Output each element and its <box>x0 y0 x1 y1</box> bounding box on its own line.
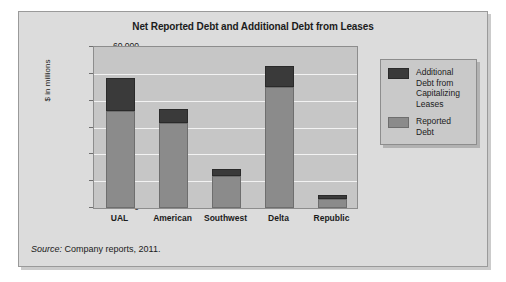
bar-segment-reported-debt[interactable] <box>265 87 294 208</box>
legend-label: Additional Debt from Capitalizing Leases <box>416 67 470 109</box>
plot-area <box>93 46 358 209</box>
gridline <box>94 74 357 75</box>
bar-segment-additional-debt[interactable] <box>318 195 347 199</box>
source-note: Source: Company reports, 2011. <box>31 244 160 254</box>
chart-legend: Additional Debt from Capitalizing Leases… <box>380 59 477 145</box>
bar-group[interactable] <box>106 78 135 208</box>
x-axis-label-southwest: Southwest <box>199 213 252 223</box>
legend-item[interactable]: Additional Debt from Capitalizing Leases <box>388 67 470 109</box>
legend-swatch <box>388 68 409 79</box>
legend-swatch <box>388 117 409 128</box>
x-axis-label-republic: Republic <box>305 213 358 223</box>
bar-segment-reported-debt[interactable] <box>212 176 241 208</box>
legend-item[interactable]: Reported Debt <box>388 116 470 137</box>
x-axis-label-ual: UAL <box>93 213 146 223</box>
legend-label: Reported Debt <box>416 116 470 137</box>
chart-title: Net Reported Debt and Additional Debt fr… <box>19 21 487 32</box>
x-axis-label-american: American <box>146 213 199 223</box>
bar-segment-reported-debt[interactable] <box>106 111 135 208</box>
bar-segment-reported-debt[interactable] <box>159 123 188 208</box>
bar-segment-additional-debt[interactable] <box>106 78 135 112</box>
bar-group[interactable] <box>212 169 241 208</box>
bar-group[interactable] <box>159 109 188 208</box>
bar-segment-additional-debt[interactable] <box>159 109 188 124</box>
bar-segment-additional-debt[interactable] <box>265 66 294 87</box>
bar-group[interactable] <box>318 195 347 208</box>
bar-segment-reported-debt[interactable] <box>318 199 347 208</box>
y-axis-title: $ in millions <box>43 36 52 126</box>
source-text: Company reports, 2011. <box>62 244 160 254</box>
bar-segment-additional-debt[interactable] <box>212 169 241 176</box>
x-axis-label-delta: Delta <box>252 213 305 223</box>
bar-group[interactable] <box>265 66 294 208</box>
source-label: Source: <box>31 244 62 254</box>
figure-panel: Net Reported Debt and Additional Debt fr… <box>18 11 488 267</box>
